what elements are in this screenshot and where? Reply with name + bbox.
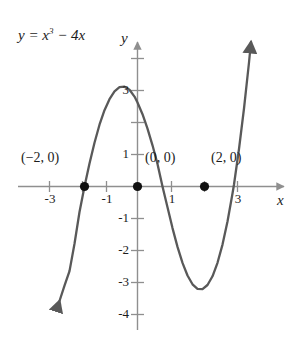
x-tick-label-neg1: -1 — [97, 191, 117, 207]
annotation-point-pos2: (2, 0) — [211, 150, 241, 166]
graph-canvas — [0, 0, 299, 340]
y-tick-label-neg2: -2 — [106, 242, 129, 258]
y-tick-label-neg4: -4 — [106, 306, 129, 322]
y-tick-label-neg3: -3 — [106, 274, 129, 290]
annotation-point-neg2: (−2, 0) — [21, 150, 59, 166]
x-tick-label-1: 1 — [164, 191, 180, 207]
cubic-curve — [60, 42, 252, 301]
y-tick-label-3: 3 — [113, 82, 129, 98]
y-tick-label-neg1: -1 — [106, 210, 129, 226]
point-marker-origin — [133, 182, 142, 191]
y-tick-label-1: 1 — [113, 146, 129, 162]
point-marker-neg2 — [80, 182, 89, 191]
x-tick-label-neg3: -3 — [40, 191, 60, 207]
point-marker-pos2 — [200, 182, 209, 191]
annotation-point-origin: (0, 0) — [145, 150, 175, 166]
x-tick-label-3: 3 — [230, 191, 246, 207]
cubic-function-figure: y = x3 − 4x y x — [0, 0, 299, 340]
